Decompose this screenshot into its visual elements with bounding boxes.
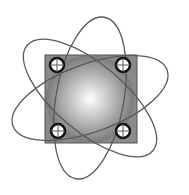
electron-circle-icon-top-right bbox=[116, 58, 130, 72]
electron-circle-icon-bottom-right bbox=[116, 124, 130, 138]
atom-diagram bbox=[0, 0, 189, 195]
atom-icon bbox=[0, 0, 189, 195]
electron-circle-icon-top-left bbox=[50, 58, 64, 72]
electron-circle-icon-bottom-left bbox=[51, 124, 65, 138]
